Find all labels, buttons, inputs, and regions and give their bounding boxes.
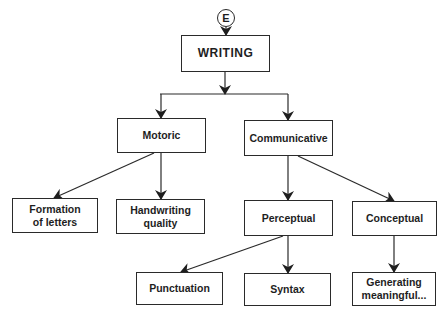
node-label: Syntax (270, 283, 304, 296)
edge-communicative-conceptual (298, 156, 394, 201)
node-formation-of-letters: Formation of letters (12, 198, 98, 233)
connector-e: E (217, 9, 235, 27)
node-label: WRITING (198, 47, 254, 60)
edge-motoric-formation (54, 153, 154, 198)
node-label: Punctuation (149, 282, 210, 295)
node-label-line2: meaningful... (362, 289, 427, 302)
node-label: Conceptual (366, 212, 423, 225)
node-label: Communicative (249, 132, 327, 145)
node-label: Motoric (143, 129, 181, 142)
node-label-line1: Handwriting (130, 204, 191, 217)
node-label-line2: quality (144, 217, 178, 230)
node-label: Perceptual (262, 212, 316, 225)
node-writing: WRITING (181, 35, 270, 72)
node-label-line2: of letters (33, 216, 77, 229)
node-motoric: Motoric (117, 118, 206, 153)
node-punctuation: Punctuation (136, 272, 223, 305)
node-conceptual: Conceptual (352, 201, 437, 236)
edge-perceptual-punctuation (181, 236, 283, 272)
node-syntax: Syntax (244, 273, 331, 306)
node-generating-meaningful: Generating meaningful... (352, 272, 436, 306)
node-label-line1: Generating (366, 276, 421, 289)
connector-label: E (222, 12, 229, 24)
node-label-line1: Formation (29, 203, 80, 216)
node-perceptual: Perceptual (244, 200, 333, 236)
node-communicative: Communicative (244, 120, 333, 156)
node-handwriting-quality: Handwriting quality (116, 199, 205, 234)
